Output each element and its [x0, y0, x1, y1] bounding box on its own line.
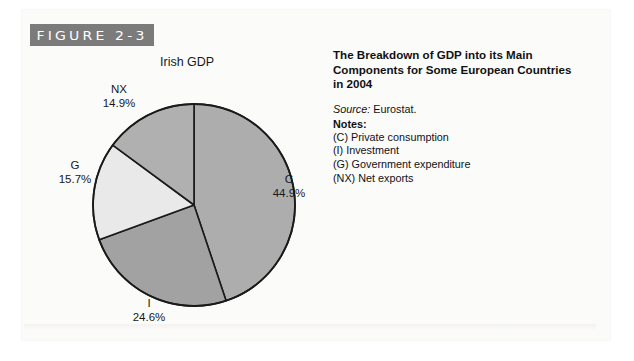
pie-slice-label-nx: NX 14.9% — [96, 83, 142, 110]
pie-slice-name-nx: NX — [111, 83, 127, 95]
pie-slice-pct-c: 44.9% — [264, 187, 314, 201]
caption-title: The Breakdown of GDP into its Main Compo… — [333, 48, 573, 92]
notes-heading: Notes: — [333, 117, 573, 131]
caption-block: The Breakdown of GDP into its Main Compo… — [333, 48, 573, 185]
pie-chart-svg — [88, 99, 300, 311]
pie-slice-name-i: I — [147, 297, 150, 309]
pie-slice-label-i: I 24.6% — [124, 297, 174, 324]
chart-title: Irish GDP — [160, 55, 214, 69]
figure-number-banner: FIGURE 2-3 — [30, 24, 154, 46]
source-word: Source: — [333, 103, 370, 115]
note-line-i: (I) Investment — [333, 144, 573, 158]
pie-slice-pct-nx: 14.9% — [96, 97, 142, 111]
pie-chart: Irish GDP NX 14.9% G 15.7% C 44.9% I 24.… — [60, 55, 330, 345]
figure-page: FIGURE 2-3 Irish GDP NX 14.9% G 15.7% C … — [0, 0, 634, 361]
note-line-c: (C) Private consumption — [333, 131, 573, 145]
pie-slice-label-g: G 15.7% — [52, 159, 98, 186]
pie-slice-name-c: C — [285, 173, 293, 185]
pie-slice-name-g: G — [71, 159, 80, 171]
figure-number-label: FIGURE 2-3 — [36, 28, 147, 43]
pie-slice-pct-g: 15.7% — [52, 173, 98, 187]
note-line-nx: (NX) Net exports — [333, 172, 573, 186]
source-value: Eurostat. — [370, 103, 416, 115]
pie-slice-label-c: C 44.9% — [264, 173, 314, 200]
source-line: Source: Eurostat. — [333, 102, 573, 116]
note-line-g: (G) Government expenditure — [333, 158, 573, 172]
pie-slice-pct-i: 24.6% — [124, 311, 174, 325]
